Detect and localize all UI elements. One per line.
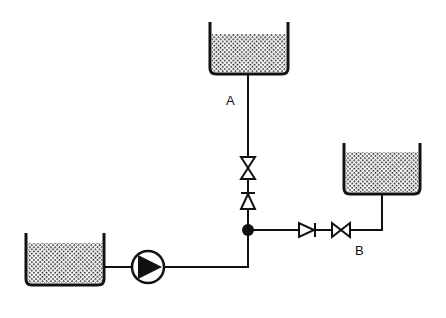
check-valve-a-icon [241,193,255,209]
label-a: A [226,93,235,108]
gate-valve-a-icon [241,157,255,179]
pump-icon [132,251,164,283]
tank-a [210,22,288,74]
label-b: B [355,243,364,258]
check-valve-b-icon [299,223,315,237]
pipes [104,74,382,267]
gate-valve-b-icon [332,223,350,237]
tank-b [344,143,420,194]
tank-source [26,233,104,285]
piping-diagram [0,0,446,318]
junction-icon [242,224,254,236]
